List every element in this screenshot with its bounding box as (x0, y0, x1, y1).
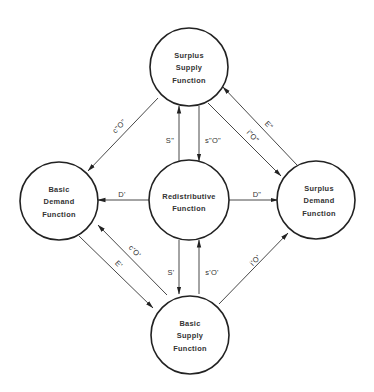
node-text-line: Function (172, 76, 206, 85)
node-text-line: Basic (48, 185, 69, 194)
edge-label-S1: S' (167, 268, 174, 277)
node-surplus-demand-function: Surplus Demand Function (277, 161, 355, 239)
node-text-line: Function (302, 209, 336, 218)
edge-label-s2O2: s"O" (205, 136, 221, 145)
node-basic-supply-function: Basic Supply Function (151, 296, 229, 374)
node-text-line: Surplus (304, 184, 334, 193)
edge-E2-surplus-demand-to-surplus-supply: E" (223, 87, 297, 165)
node-text-line: Demand (304, 196, 335, 205)
edge-label-D1: D' (118, 190, 126, 199)
node-text-line: Function (42, 210, 76, 219)
edge-label-S2: S" (166, 136, 174, 145)
edge-i1O1-basic-supply-to-surplus-demand: i'O' (219, 233, 288, 304)
edge-label-s1O1: s'O' (205, 268, 219, 277)
edge-E1-basic-demand-to-basic-supply: E' (79, 236, 153, 308)
edge-D1-redistributive-to-basic-demand: D' (98, 190, 149, 200)
node-text-line: Basic (179, 319, 200, 328)
node-text-line: Surplus (174, 51, 204, 60)
node-text-line: Supply (177, 331, 204, 340)
edge-label-E2: E" (263, 119, 275, 131)
edge-c2O2-surplus-supply-to-basic-demand: c"O" (88, 98, 158, 171)
node-basic-demand-function: Basic Demand Function (20, 162, 98, 240)
edge-label-i1O1: i'O' (248, 253, 263, 268)
edge-S1-redistributive-to-basic-supply: S' (167, 240, 179, 294)
flow-diagram: S" s"O" S' s'O' D' D" c"O" E" i"O" c'O' … (0, 0, 374, 392)
edge-label-E1: E' (113, 259, 125, 271)
node-redistributive-function: Redistributive Function (149, 160, 229, 240)
node-surplus-supply-function: Surplus Supply Function (150, 28, 228, 106)
edge-s1O1-basic-supply-to-redistributive: s'O' (199, 240, 219, 294)
node-text-line: Function (172, 204, 206, 213)
edge-S2-redistributive-to-surplus-supply: S" (166, 106, 179, 161)
edge-s2O2-surplus-supply-to-redistributive: s"O" (199, 106, 221, 161)
node-text-line: Supply (176, 63, 203, 72)
edge-c1O1-basic-supply-to-basic-demand: c'O' (98, 225, 167, 295)
node-text-line: Redistributive (162, 192, 215, 201)
edge-label-D2: D" (253, 190, 262, 199)
node-text-line: Demand (44, 197, 75, 206)
edge-D2-redistributive-to-surplus-demand: D" (229, 190, 278, 200)
node-text-line: Function (173, 344, 207, 353)
